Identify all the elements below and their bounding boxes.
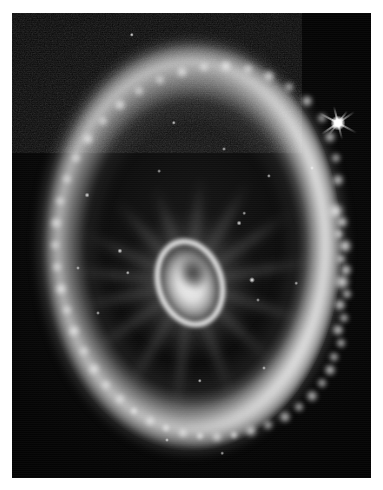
page-bottom-margin — [0, 478, 383, 490]
astronomical-photograph-plate — [12, 13, 371, 478]
sky-background — [12, 13, 371, 478]
page-canvas — [0, 0, 383, 490]
